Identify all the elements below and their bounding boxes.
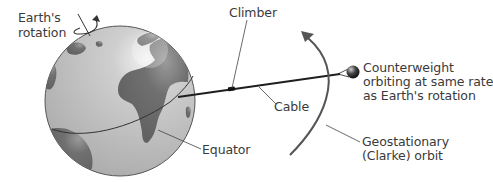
counterweight-sphere-icon [347, 66, 360, 79]
orbit-leader-line [326, 125, 360, 142]
geostationary-orbit-label: Geostationary (Clarke) orbit [362, 135, 449, 163]
equator-label: Equator [202, 143, 250, 157]
counterweight-label-line2: orbiting at same rate [363, 75, 493, 89]
earth-globe [44, 26, 195, 176]
counterweight-label-line1: Counterweight [363, 61, 493, 75]
geostationary-orbit-arc [290, 31, 329, 155]
earth-rotation-label: Earth's rotation [18, 10, 66, 40]
earth-rotation-label-line1: Earth's [18, 10, 66, 25]
counterweight-label-line3: as Earth's rotation [363, 89, 493, 103]
climber-label: Climber [229, 6, 277, 20]
counterweight-label: Counterweight orbiting at same rate as E… [363, 61, 493, 103]
geostationary-orbit-label-line2: (Clarke) orbit [362, 149, 449, 163]
climber-leader-line [232, 20, 247, 88]
cable-line [178, 74, 340, 97]
earth-rotation-label-line2: rotation [18, 25, 66, 40]
geostationary-orbit-label-line1: Geostationary [362, 135, 449, 149]
climber-icon [228, 86, 235, 91]
cable-label: Cable [274, 100, 309, 114]
